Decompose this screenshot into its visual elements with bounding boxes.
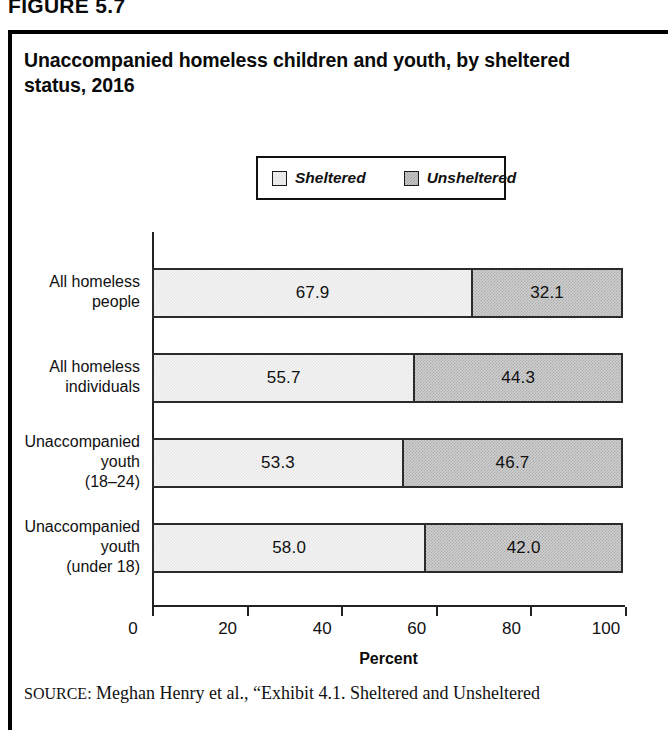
- legend-label-sheltered: Sheltered: [295, 169, 366, 187]
- bar-row: 53.346.7: [152, 438, 625, 488]
- legend-item-unsheltered: Unsheltered: [404, 158, 517, 198]
- x-axis-tick: [341, 607, 343, 616]
- x-axis-tick: [152, 607, 154, 616]
- bar-value-label: 58.0: [272, 538, 306, 558]
- bar-value-label: 53.3: [261, 453, 295, 473]
- legend-label-unsheltered: Unsheltered: [427, 169, 517, 187]
- bar-value-label: 67.9: [296, 283, 330, 303]
- legend-swatch-unsheltered-icon: [404, 171, 419, 186]
- category-label: All homelessindividuals: [4, 357, 140, 397]
- legend-item-sheltered: Sheltered: [272, 158, 366, 198]
- x-axis-tick-label: 40: [302, 619, 342, 639]
- bar-segment-unsheltered: 32.1: [471, 268, 623, 318]
- bar-value-label: 46.7: [496, 453, 530, 473]
- x-axis-tick-label: 100: [586, 619, 626, 639]
- x-axis-line: [152, 605, 625, 607]
- x-axis-title: Percent: [152, 650, 625, 668]
- x-axis-tick-label: 20: [208, 619, 248, 639]
- x-axis-tick: [247, 607, 249, 616]
- bar-row: 58.042.0: [152, 523, 625, 573]
- bar-segment-sheltered: 55.7: [152, 353, 415, 403]
- x-axis-tick: [530, 607, 532, 616]
- bar-value-label: 55.7: [267, 368, 301, 388]
- figure-number: FIGURE 5.7: [8, 0, 125, 18]
- bar-value-label: 44.3: [501, 368, 535, 388]
- source-label: SOURCE:: [24, 685, 92, 702]
- x-axis-tick-label: 80: [491, 619, 531, 639]
- bar-value-label: 42.0: [507, 538, 541, 558]
- x-axis-tick-label: 60: [397, 619, 437, 639]
- x-axis-tick: [625, 607, 627, 616]
- category-label: All homelesspeople: [4, 272, 140, 312]
- source-note: SOURCE: Meghan Henry et al., “Exhibit 4.…: [24, 682, 644, 705]
- chart-title: Unaccompanied homeless children and yout…: [24, 48, 604, 98]
- bar-segment-unsheltered: 42.0: [424, 523, 623, 573]
- bar-value-label: 32.1: [530, 283, 564, 303]
- category-label: Unaccompaniedyouth(18–24): [4, 432, 140, 492]
- category-label: Unaccompaniedyouth(under 18): [4, 517, 140, 577]
- chart-plot-area: All homelesspeopleAll homelessindividual…: [152, 232, 625, 605]
- bar-row: 67.932.1: [152, 268, 625, 318]
- bar-segment-sheltered: 58.0: [152, 523, 426, 573]
- bar-segment-sheltered: 67.9: [152, 268, 473, 318]
- x-axis-tick-label: 0: [113, 619, 153, 639]
- bar-segment-unsheltered: 44.3: [413, 353, 623, 403]
- source-text: Meghan Henry et al., “Exhibit 4.1. Shelt…: [96, 683, 540, 703]
- legend-swatch-sheltered-icon: [272, 171, 287, 186]
- bar-segment-unsheltered: 46.7: [402, 438, 623, 488]
- chart-legend: Sheltered Unsheltered: [256, 156, 506, 200]
- bar-segment-sheltered: 53.3: [152, 438, 404, 488]
- x-axis-tick: [436, 607, 438, 616]
- bar-row: 55.744.3: [152, 353, 625, 403]
